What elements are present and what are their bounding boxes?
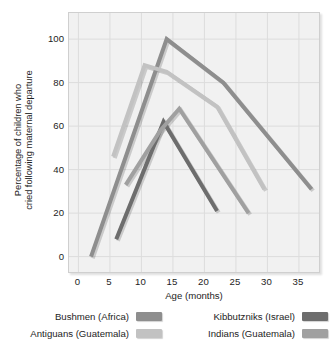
y-tick-label: 80: [40, 76, 64, 87]
legend-label: Bushmen (Africa): [55, 311, 129, 322]
y-tick-label: 100: [40, 33, 64, 44]
x-tick-label: 35: [293, 276, 304, 287]
x-tick-label: 10: [135, 276, 146, 287]
legend-label: Indians (Guatemala): [208, 328, 295, 339]
x-axis-title: Age (months): [68, 290, 320, 301]
y-tick-label: 20: [40, 207, 64, 218]
y-axis-title-line-2: cried following maternal departure: [23, 70, 34, 210]
legend-item-kibbutzniks: Kibbutzniks (Israel): [178, 309, 328, 324]
y-tick-label: 0: [40, 250, 64, 261]
x-tick-label: 25: [230, 276, 241, 287]
y-axis-title-line-1: Percentage of children who: [12, 84, 23, 196]
legend-swatch-antiguans: [136, 329, 162, 338]
x-tick-label: 5: [106, 276, 111, 287]
y-tick-label: 40: [40, 163, 64, 174]
legend-swatch-kibbutzniks: [302, 312, 328, 321]
x-tick-label: 30: [261, 276, 272, 287]
line-chart-figure: Percentage of children who cried followi…: [0, 0, 334, 344]
legend-item-indians: Indians (Guatemala): [178, 326, 328, 341]
plot-area: [68, 12, 320, 273]
legend-item-antiguans: Antiguans (Guatemala): [14, 326, 162, 341]
y-axis-tick-labels: 020406080100: [36, 0, 64, 344]
x-axis-tick-labels: 05101520253035: [68, 276, 320, 290]
legend-item-bushmen: Bushmen (Africa): [14, 309, 162, 324]
x-tick-label: 20: [198, 276, 209, 287]
x-tick-label: 0: [75, 276, 80, 287]
data-series-lines: [69, 13, 320, 273]
legend-label: Kibbutzniks (Israel): [213, 311, 295, 322]
legend-label: Antiguans (Guatemala): [30, 328, 129, 339]
x-tick-label: 15: [167, 276, 178, 287]
legend-swatch-bushmen: [136, 312, 162, 321]
y-tick-label: 60: [40, 120, 64, 131]
legend-swatch-indians: [302, 329, 328, 338]
chart-legend: Bushmen (Africa) Antiguans (Guatemala) K…: [0, 308, 334, 344]
